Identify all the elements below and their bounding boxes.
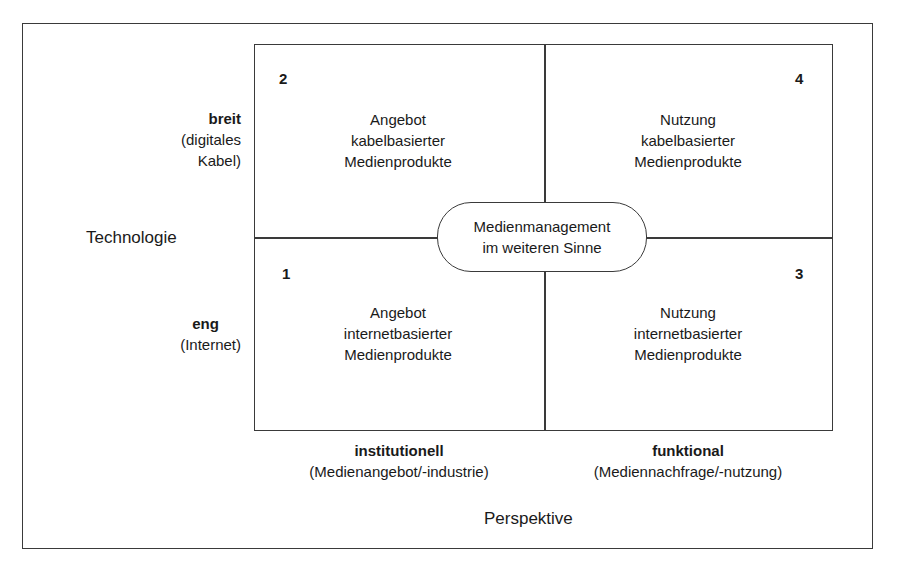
- quadrant-2-line-1: Angebot: [298, 109, 498, 130]
- quadrant-1-line-3: Medienprodukte: [298, 344, 498, 365]
- quadrant-3-line-1: Nutzung: [588, 302, 788, 323]
- center-line-1: Medienmanagement: [438, 216, 646, 237]
- quadrant-3-text: Nutzung internetbasierter Medienprodukte: [588, 302, 788, 365]
- x-level-funktional-label: funktional: [558, 440, 818, 461]
- quadrant-1-line-2: internetbasierter: [298, 323, 498, 344]
- quadrant-number-1: 1: [282, 265, 290, 282]
- center-label-pill: Medienmanagement im weiteren Sinne: [437, 202, 647, 272]
- quadrant-2-line-3: Medienprodukte: [298, 151, 498, 172]
- x-axis-title: Perspektive: [484, 509, 573, 529]
- quadrant-4-line-3: Medienprodukte: [588, 151, 788, 172]
- y-level-breit-note-1: (digitales: [150, 129, 241, 150]
- y-level-breit: breit (digitales Kabel): [150, 108, 241, 171]
- center-line-2: im weiteren Sinne: [438, 237, 646, 258]
- x-level-institutionell-label: institutionell: [269, 440, 529, 461]
- y-level-breit-note-2: Kabel): [150, 150, 241, 171]
- quadrant-4-line-1: Nutzung: [588, 109, 788, 130]
- quadrant-4-text: Nutzung kabelbasierter Medienprodukte: [588, 109, 788, 172]
- y-level-eng-note: (Internet): [150, 334, 241, 355]
- quadrant-2-text: Angebot kabelbasierter Medienprodukte: [298, 109, 498, 172]
- quadrant-number-4: 4: [795, 70, 803, 87]
- x-level-funktional-note: (Mediennachfrage/-nutzung): [558, 461, 818, 482]
- x-level-funktional: funktional (Mediennachfrage/-nutzung): [558, 440, 818, 482]
- y-level-eng: eng (Internet): [150, 313, 241, 355]
- y-level-breit-label: breit: [150, 108, 241, 129]
- quadrant-2-line-2: kabelbasierter: [298, 130, 498, 151]
- quadrant-3-line-2: internetbasierter: [588, 323, 788, 344]
- quadrant-1-text: Angebot internetbasierter Medienprodukte: [298, 302, 498, 365]
- x-level-institutionell: institutionell (Medienangebot/-industrie…: [269, 440, 529, 482]
- y-level-eng-label: eng: [150, 313, 241, 334]
- quadrant-1-line-1: Angebot: [298, 302, 498, 323]
- quadrant-number-3: 3: [795, 265, 803, 282]
- quadrant-number-2: 2: [279, 70, 287, 87]
- y-axis-title: Technologie: [86, 228, 177, 248]
- quadrant-3-line-3: Medienprodukte: [588, 344, 788, 365]
- x-level-institutionell-note: (Medienangebot/-industrie): [269, 461, 529, 482]
- quadrant-4-line-2: kabelbasierter: [588, 130, 788, 151]
